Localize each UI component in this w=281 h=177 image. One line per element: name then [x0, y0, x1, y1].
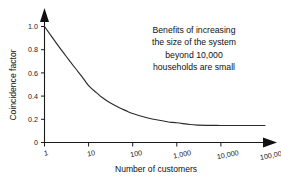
- y-tick-label-0-6: 0.6: [28, 69, 38, 78]
- x-axis-title: Number of customers: [115, 164, 197, 174]
- y-tick-label-0: 0: [34, 138, 38, 147]
- y-axis-title: Coincidence factor: [8, 49, 18, 120]
- x-tick-label-1000: 1,000: [172, 148, 191, 160]
- x-tick-label-100000: 100,000: [259, 148, 281, 162]
- x-axis-ticks: [45, 143, 266, 147]
- y-axis-arrow-icon: [40, 8, 49, 22]
- coincidence-factor-chart: 0 0.2 0.4 0.6 0.8 1.0 1 10 100 1,000 10,…: [0, 0, 281, 177]
- y-tick-label-0-8: 0.8: [28, 45, 38, 54]
- x-tick-label-1: 1: [43, 148, 49, 158]
- chart-annotation-text: Benefits of increasing the size of the s…: [118, 24, 270, 73]
- x-tick-label-100: 100: [129, 148, 142, 159]
- y-tick-label-1-0: 1.0: [28, 22, 38, 31]
- y-axis-tick-labels: 0 0.2 0.4 0.6 0.8 1.0: [28, 22, 38, 147]
- y-tick-label-0-4: 0.4: [28, 92, 38, 101]
- x-axis-tick-labels: 1 10 100 1,000 10,000 100,000: [43, 148, 281, 162]
- y-tick-label-0-2: 0.2: [28, 115, 38, 124]
- x-tick-label-10000: 10,000: [216, 148, 239, 161]
- x-tick-label-10: 10: [86, 148, 96, 158]
